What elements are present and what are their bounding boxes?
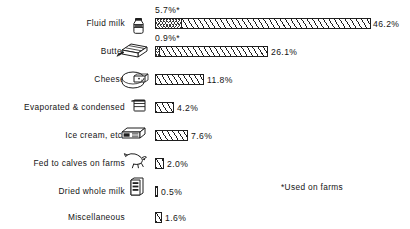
- butter-sticks-icon: [116, 40, 154, 64]
- cheese-wheel-icon: [118, 67, 152, 89]
- bar-segment-farm-fluid-milk: [155, 18, 182, 29]
- milk-utilization-bar-chart: Fluid milk 5.7%* 46.2% Butter: [0, 0, 410, 229]
- value-label-butter: 26.1%: [271, 46, 297, 58]
- value-label-fluid-milk: 46.2%: [373, 18, 399, 30]
- farm-share-label-fluid-milk: 5.7%*: [155, 5, 180, 16]
- bar-segment-total-miscellaneous: [155, 212, 162, 223]
- bar-segment-total-dried-whole-milk: [155, 186, 158, 197]
- value-label-fed-to-calves: 2.0%: [167, 158, 188, 170]
- bar-segment-total-fluid-milk: [181, 18, 371, 29]
- ice-cream-carton-icon: [118, 122, 154, 144]
- bar-segment-total-fed-to-calves: [155, 158, 164, 169]
- footnote-used-on-farms: *Used on farms: [281, 182, 343, 192]
- category-label-evaporated-condensed: Evaporated & condensed: [0, 102, 125, 113]
- bar-segment-total-ice-cream: [155, 130, 188, 141]
- value-label-evaporated-condensed: 4.2%: [177, 102, 198, 114]
- farm-share-label-butter: 0.9%*: [155, 33, 180, 44]
- bar-segment-total-butter: [159, 46, 268, 57]
- calf-icon: [120, 149, 154, 171]
- chart-row-evaporated-condensed: Evaporated & condensed 4.2%: [0, 102, 410, 130]
- category-label-cheese: Cheese: [0, 74, 125, 85]
- condensed-milk-can-icon: [126, 96, 152, 116]
- category-label-miscellaneous: Miscellaneous: [0, 212, 125, 223]
- chart-row-butter: Butter 0.9%* 26.: [0, 46, 410, 74]
- bar-segment-total-cheese: [155, 74, 204, 85]
- bar-segment-total-evaporated-condensed: [155, 102, 174, 113]
- chart-row-cheese: Cheese 11.8%: [0, 74, 410, 102]
- value-label-miscellaneous: 1.6%: [165, 212, 186, 224]
- value-label-dried-whole-milk: 0.5%: [161, 186, 182, 198]
- chart-row-fed-to-calves: Fed to calves on farms: [0, 158, 410, 186]
- category-label-dried-whole-milk: Dried whole milk: [0, 186, 125, 197]
- category-label-butter: Butter: [0, 46, 125, 57]
- milk-bottle-icon: [126, 16, 153, 36]
- value-label-cheese: 11.8%: [207, 74, 233, 86]
- value-label-ice-cream: 7.6%: [191, 130, 212, 142]
- category-label-fluid-milk: Fluid milk: [0, 18, 125, 29]
- category-label-fed-to-calves: Fed to calves on farms: [0, 158, 125, 169]
- chart-row-dried-whole-milk: Dried whole milk 0.5%: [0, 186, 410, 214]
- chart-row-fluid-milk: Fluid milk 5.7%* 46.2%: [0, 18, 410, 46]
- category-label-ice-cream: Ice cream, etc.: [0, 130, 125, 141]
- chart-row-ice-cream: Ice cream, etc. 7.6%: [0, 130, 410, 158]
- dried-milk-box-icon: [124, 176, 152, 200]
- chart-row-miscellaneous: Miscellaneous 1.6%: [0, 212, 410, 229]
